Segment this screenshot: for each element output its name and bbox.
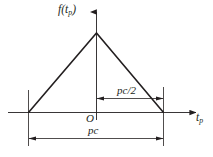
triangular-distribution-diagram	[0, 0, 213, 157]
origin-label: O	[86, 113, 94, 124]
triangular-density-curve	[29, 33, 164, 113]
y-axis-label-subscript: p	[68, 8, 72, 17]
full-width-label: pc	[88, 125, 98, 136]
y-axis-label-main: f(t	[58, 3, 68, 15]
half-width-label: pc/2	[117, 85, 136, 96]
y-axis-label: f(tp)	[58, 4, 76, 16]
x-axis-label: tp	[196, 112, 203, 124]
y-axis-label-close: )	[72, 3, 76, 15]
figure-container: f(tp) tp O pc/2 pc	[0, 0, 213, 157]
x-axis-label-subscript: p	[199, 116, 203, 125]
